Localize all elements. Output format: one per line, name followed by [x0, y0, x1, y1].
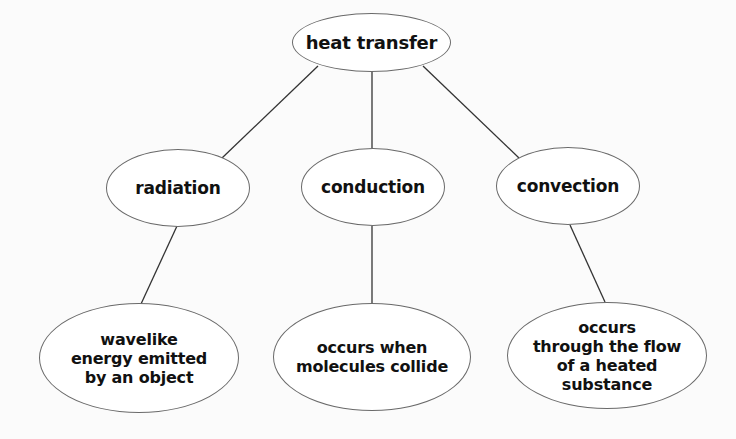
node-label: wavelike energy emitted by an object — [71, 330, 207, 387]
node-label: heat transfer — [306, 32, 438, 53]
concept-map: heat transfer radiation conduction conve… — [0, 0, 736, 439]
node-heat-transfer: heat transfer — [292, 13, 451, 72]
link-root-radiation — [222, 66, 318, 158]
node-conduction-detail: occurs when molecules collide — [273, 303, 471, 411]
node-label: conduction — [321, 177, 425, 197]
node-radiation-detail: wavelike energy emitted by an object — [39, 303, 239, 413]
node-conduction: conduction — [301, 148, 445, 226]
link-root-convection — [423, 66, 519, 158]
node-label: occurs when molecules collide — [296, 338, 448, 376]
link-radiation-detail — [141, 226, 177, 304]
node-radiation: radiation — [106, 149, 250, 227]
link-convection-detail — [570, 225, 605, 302]
node-convection: convection — [496, 147, 640, 225]
node-convection-detail: occurs through the flow of a heated subs… — [507, 302, 707, 409]
node-label: convection — [517, 176, 619, 196]
node-label: radiation — [135, 178, 220, 198]
node-label: occurs through the flow of a heated subs… — [533, 318, 681, 394]
